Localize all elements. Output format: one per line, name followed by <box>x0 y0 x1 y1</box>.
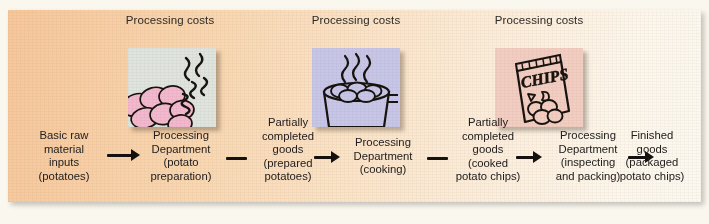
node-line: Department <box>341 150 425 164</box>
label-line-2: costs <box>373 14 400 26</box>
node-line: inputs <box>22 156 106 170</box>
node-line: Finished <box>606 129 698 143</box>
label-line-1: Processing <box>495 14 553 26</box>
node-line: material <box>22 143 106 157</box>
node-line: (potato <box>139 156 223 170</box>
node-line: Processing <box>341 136 425 150</box>
flow-node-processing-department-cooking: Processing Department (cooking) <box>341 136 425 177</box>
node-line: Department <box>139 143 223 157</box>
node-line: Processing <box>139 129 223 143</box>
processing-costs-label-2: Processing costs <box>310 14 402 28</box>
node-line: (potatoes) <box>22 170 106 184</box>
flow-node-processing-department-potato-preparation: Processing Department (potato preparatio… <box>139 129 223 183</box>
flow-node-basic-raw-material-inputs: Basic raw material inputs (potatoes) <box>22 129 106 183</box>
node-line: Partially <box>248 116 328 130</box>
flow-node-partially-completed-goods-cooked-potato-chips: Partially completed goods (cooked potato… <box>442 116 534 184</box>
label-line-2: costs <box>187 14 214 26</box>
label-line-1: Processing <box>312 14 370 26</box>
dash-prep-to-wip1 <box>226 157 247 160</box>
node-line: (packaged <box>606 156 698 170</box>
node-line: potato chips) <box>442 170 534 184</box>
processing-costs-label-3: Processing costs <box>493 14 585 28</box>
processing-costs-label-1: Processing costs <box>124 14 216 28</box>
arrow-inputs-to-prep <box>107 149 140 161</box>
arrow-wip2-to-packing <box>516 151 544 163</box>
node-line: completed <box>442 130 534 144</box>
node-line: potatoes) <box>248 170 328 184</box>
process-costing-panel: Processing costs Processing costs Proces… <box>8 10 701 202</box>
node-line: (cooking) <box>341 163 425 177</box>
label-line-1: Processing <box>126 14 184 26</box>
flow-node-partially-completed-goods-prepared-potatoes: Partially completed goods (prepared pota… <box>248 116 328 184</box>
node-line: preparation) <box>139 170 223 184</box>
node-line: Basic raw <box>22 129 106 143</box>
arrow-wip1-to-cooking <box>314 151 342 163</box>
flow-node-finished-goods-packaged-potato-chips: Finished goods (packaged potato chips) <box>606 129 698 183</box>
node-line: goods <box>606 143 698 157</box>
potato-preparation-thumbnail <box>128 48 216 127</box>
node-line: Partially <box>442 116 534 130</box>
node-line: potato chips) <box>606 170 698 184</box>
diagram-canvas: Processing costs Processing costs Proces… <box>0 0 709 224</box>
node-line: completed <box>248 130 328 144</box>
label-line-2: costs <box>556 14 583 26</box>
